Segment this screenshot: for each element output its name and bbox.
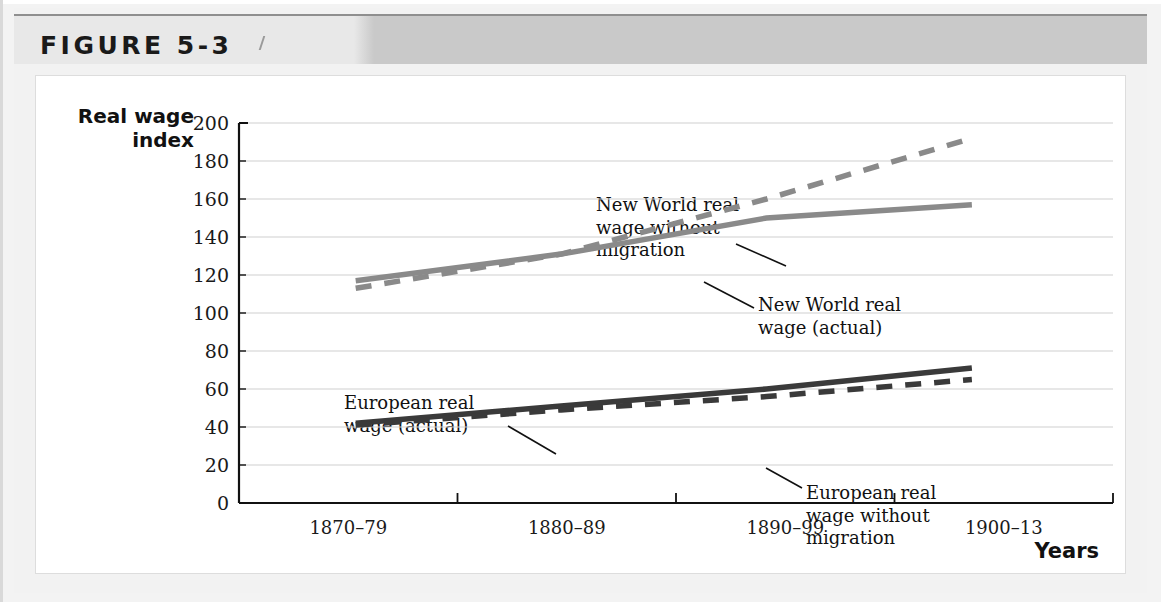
scan-left-edge bbox=[0, 0, 3, 602]
scan-top-edge bbox=[0, 0, 1161, 4]
chart-plot bbox=[36, 76, 1125, 573]
leader-european-without-migration bbox=[766, 468, 802, 488]
figure-card: FIGURE 5-3 Real wage index 2001801601401… bbox=[14, 8, 1147, 593]
chart-area: Real wage index 200180160140120100806040… bbox=[36, 76, 1125, 573]
series-line-1 bbox=[356, 205, 972, 281]
leader-new-world-without-migration bbox=[736, 244, 786, 266]
leader-new-world-actual bbox=[704, 282, 754, 308]
x-axis-title: Years bbox=[1034, 539, 1099, 563]
leader-european-actual bbox=[508, 426, 556, 454]
series-line-2 bbox=[356, 368, 972, 423]
figure-number-label: FIGURE 5-3 bbox=[40, 31, 232, 60]
figure-root: FIGURE 5-3 Real wage index 2001801601401… bbox=[0, 0, 1161, 602]
chart-panel: Real wage index 200180160140120100806040… bbox=[36, 76, 1125, 573]
header-slash-mark bbox=[247, 36, 266, 50]
figure-header-bar: FIGURE 5-3 bbox=[14, 14, 1147, 64]
series-line-3 bbox=[356, 380, 972, 426]
